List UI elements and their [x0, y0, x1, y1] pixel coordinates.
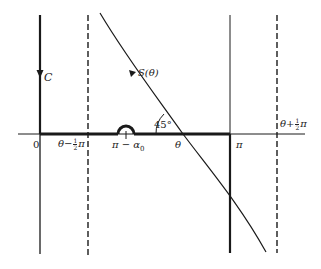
arrow-down-icon — [37, 70, 44, 78]
indent-subscript: 0 — [140, 145, 144, 153]
angle-label: 45° — [154, 120, 172, 130]
right-dashed-prefix: θ+ — [280, 118, 294, 129]
curve-label: S(θ) — [138, 68, 159, 78]
indent-label: π − α0 — [112, 140, 145, 153]
contour-label: C — [44, 72, 52, 83]
frac-den: 2 — [73, 145, 77, 151]
diagram-graphics — [0, 0, 321, 269]
half-fraction: 12 — [73, 138, 77, 151]
right-dashed-suffix: π — [300, 118, 307, 129]
right-dashed-label: θ+12π — [280, 118, 307, 131]
pi-label: π — [236, 140, 243, 150]
curve-arrow-icon — [129, 70, 136, 77]
left-dashed-prefix: θ− — [58, 138, 72, 149]
frac-den: 2 — [295, 125, 299, 131]
half-fraction: 12 — [295, 118, 299, 131]
left-dashed-suffix: π — [78, 138, 85, 149]
indent-text: π − α — [112, 139, 140, 150]
crossing-label: θ — [175, 140, 181, 150]
origin-label: 0 — [33, 140, 39, 150]
left-dashed-label: θ−12π — [58, 138, 85, 151]
contour-diagram: C S(θ) 45° 0 θ−12π π − α0 θ π θ+12π — [0, 0, 321, 269]
